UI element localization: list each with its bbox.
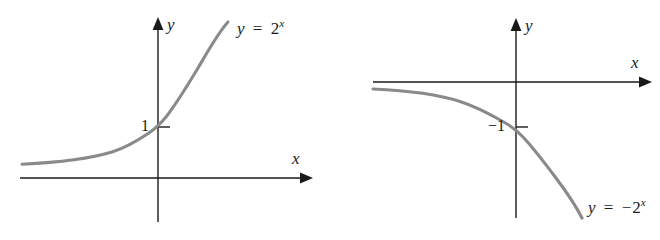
equation-minus-right: − <box>622 198 632 217</box>
y-intercept-label-right: −1 <box>488 118 505 134</box>
figure-root: y x 1 y = 2x <box>0 0 660 240</box>
curve-exponential-growth <box>22 22 228 164</box>
x-axis-label-left: x <box>292 150 300 167</box>
x-axis-right <box>373 77 652 88</box>
equation-lhs-left: y <box>237 19 245 38</box>
y-axis-label-right: y <box>525 17 533 34</box>
equation-equals-right: = <box>604 198 614 217</box>
y-axis-label-left: y <box>167 16 175 33</box>
curve-equation-label-left: y = 2x <box>237 20 284 37</box>
y-axis-right <box>511 18 522 218</box>
equation-base-right: 2 <box>632 198 641 217</box>
chart-panel-right: y x −1 y = −2x <box>330 0 660 240</box>
x-axis-left <box>20 173 313 184</box>
x-axis-label-right: x <box>631 54 639 71</box>
equation-lhs-right: y <box>588 198 596 217</box>
equation-base-left: 2 <box>271 19 280 38</box>
y-intercept-label-left: 1 <box>141 118 149 134</box>
equation-exponent-left: x <box>279 17 284 29</box>
equation-equals-left: = <box>253 19 263 38</box>
chart-panel-left: y x 1 y = 2x <box>0 0 330 240</box>
equation-exponent-right: x <box>641 196 646 208</box>
curve-equation-label-right: y = −2x <box>588 199 646 216</box>
curve-exponential-reflected <box>373 89 582 218</box>
